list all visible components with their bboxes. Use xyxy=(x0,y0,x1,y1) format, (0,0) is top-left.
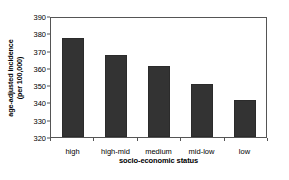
y-axis-tick-label: 390 xyxy=(33,13,46,22)
y-axis-tick-label: 370 xyxy=(33,47,46,56)
y-axis-tick-labels: 390380370360350340330320 xyxy=(28,17,48,138)
y-axis-title-line2: (per 100,000) xyxy=(15,39,24,116)
y-axis-tick-label: 320 xyxy=(33,134,46,143)
bar-slot xyxy=(180,18,223,137)
x-axis-tick-mark xyxy=(267,138,268,141)
x-axis-tick-label: mid-low xyxy=(189,147,215,156)
x-axis-tick-label: high xyxy=(65,147,79,156)
bar-high-mid[interactable] xyxy=(105,55,127,137)
bar-slot xyxy=(223,18,266,137)
x-axis-tick-label: low xyxy=(239,147,250,156)
y-axis-tick-label: 340 xyxy=(33,99,46,108)
y-axis-tick-label: 330 xyxy=(33,116,46,125)
y-axis-tick-label: 350 xyxy=(33,82,46,91)
x-axis-title: socio-economic status xyxy=(50,156,267,165)
bar-slot xyxy=(94,18,137,137)
bar-slot xyxy=(51,18,94,137)
bar-high[interactable] xyxy=(62,38,84,137)
bar-mid-low[interactable] xyxy=(191,84,213,137)
bar-medium[interactable] xyxy=(148,66,170,137)
x-axis-tick-label: high-mid xyxy=(101,147,130,156)
x-axis-tick-label: medium xyxy=(145,147,172,156)
bar-low[interactable] xyxy=(234,100,256,137)
bar-series xyxy=(51,18,266,137)
bar-slot xyxy=(137,18,180,137)
bar-chart-figure: age-adjusted incidence (per 100,000) 390… xyxy=(0,0,289,180)
y-axis-tick-label: 360 xyxy=(33,64,46,73)
y-axis-tick-label: 380 xyxy=(33,30,46,39)
y-axis-title: age-adjusted incidence (per 100,000) xyxy=(2,17,28,138)
